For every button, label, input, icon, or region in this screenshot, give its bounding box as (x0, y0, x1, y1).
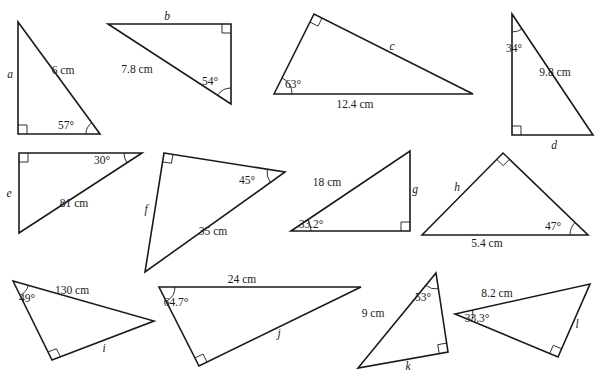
right-angle-marker (497, 159, 510, 165)
side-length-label: 81 cm (60, 197, 88, 209)
triangle-f: f45°35 cm (144, 153, 285, 272)
triangle-a: a6 cm57° (7, 22, 100, 134)
triangle-h: h47°5.4 cm (422, 153, 588, 249)
unknown-side-label: f (144, 203, 149, 216)
unknown-side-label: a (7, 68, 13, 80)
angle-label: 49° (19, 292, 36, 304)
side-length-label: 9.8 cm (539, 66, 570, 78)
angle-arc (512, 29, 522, 32)
side-length-label: 130 cm (55, 284, 89, 296)
side-length-label: 35 cm (199, 225, 227, 237)
triangle-outline (19, 153, 142, 233)
angle-label: 53° (415, 291, 432, 303)
right-angle-marker (18, 125, 27, 134)
unknown-side-label: e (6, 187, 11, 199)
angle-label: 33.3° (465, 312, 490, 324)
triangle-j: 24 cm64.7°j (159, 273, 361, 366)
angle-label: 57° (58, 119, 75, 131)
triangles-svg: a6 cm57°b7.8 cm54°c63°12.4 cm34°9.8 cmde… (0, 0, 605, 384)
triangle-outline (159, 287, 361, 366)
unknown-side-label: i (102, 342, 105, 354)
triangle-g: 18 cmg33.2° (291, 151, 418, 231)
angle-label: 34° (506, 42, 523, 54)
side-length-label: 24 cm (228, 273, 256, 285)
unknown-side-label: b (164, 10, 170, 22)
unknown-side-label: d (551, 139, 557, 151)
angle-label: 45° (239, 174, 256, 186)
triangle-e: e30°81 cm (6, 153, 142, 233)
triangle-worksheet-diagram: a6 cm57°b7.8 cm54°c63°12.4 cm34°9.8 cmde… (0, 0, 605, 384)
triangle-outline (422, 153, 588, 235)
right-angle-marker (222, 24, 231, 33)
angle-arc (86, 123, 92, 134)
unknown-side-label: l (575, 318, 578, 330)
side-length-label: 5.4 cm (471, 237, 502, 249)
unknown-side-label: k (405, 360, 411, 372)
side-length-label: 12.4 cm (336, 98, 373, 110)
angle-label: 64.7° (164, 296, 189, 308)
angle-arc (218, 88, 231, 95)
angle-label: 54° (202, 75, 219, 87)
side-length-label: 7.8 cm (121, 63, 152, 75)
right-angle-marker (19, 153, 28, 162)
angle-arc (570, 223, 575, 235)
angle-arc (426, 285, 439, 289)
angle-label: 33.2° (299, 218, 324, 230)
triangle-d: 34°9.8 cmd (506, 14, 593, 151)
unknown-side-label: g (412, 183, 418, 196)
side-length-label: 9 cm (362, 307, 385, 319)
triangle-outline (145, 153, 285, 272)
triangle-outline (18, 22, 100, 134)
angle-arc (124, 153, 127, 163)
triangle-c: c63°12.4 cm (274, 14, 473, 110)
triangle-outline (358, 273, 448, 368)
triangle-l: 8.2 cm33.3°l (455, 284, 590, 357)
angle-label: 47° (545, 220, 562, 232)
angle-arc (267, 169, 270, 182)
side-length-label: 18 cm (313, 176, 341, 188)
side-length-label: 8.2 cm (481, 287, 512, 299)
triangle-k: 53°9 cmk (358, 273, 448, 372)
right-angle-marker (512, 126, 521, 135)
triangle-outline (274, 14, 473, 94)
angle-label: 30° (94, 154, 111, 166)
angle-label: 63° (285, 78, 302, 90)
side-length-label: 6 cm (52, 64, 75, 76)
triangle-b: b7.8 cm54° (108, 10, 231, 104)
unknown-side-label: h (454, 181, 460, 193)
right-angle-marker (401, 222, 410, 231)
triangle-i: 130 cm49°i (13, 281, 154, 360)
unknown-side-label: c (389, 40, 394, 52)
